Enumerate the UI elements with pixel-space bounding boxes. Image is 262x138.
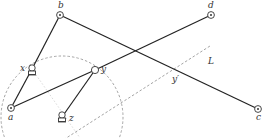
label-a: a bbox=[8, 112, 13, 122]
label-y-prime: y′ bbox=[171, 74, 179, 84]
construction-line-x bbox=[32, 69, 80, 138]
label-z: z bbox=[68, 113, 74, 123]
node-d bbox=[208, 12, 215, 19]
link-b-x bbox=[32, 15, 60, 69]
label-y: y bbox=[100, 64, 107, 74]
label-b: b bbox=[58, 0, 64, 10]
label-c: c bbox=[256, 112, 261, 122]
linkage-diagram: b d x y a z c L y′ bbox=[0, 0, 262, 138]
link-y-d bbox=[95, 15, 211, 70]
node-b bbox=[57, 12, 64, 19]
label-d: d bbox=[208, 0, 214, 10]
label-L: L bbox=[207, 56, 214, 66]
link-b-c bbox=[60, 15, 258, 109]
node-y bbox=[91, 66, 98, 73]
node-z bbox=[58, 112, 66, 122]
node-a bbox=[8, 105, 15, 112]
node-x bbox=[28, 65, 36, 75]
label-x: x bbox=[20, 63, 25, 73]
link-a-y bbox=[11, 70, 95, 108]
